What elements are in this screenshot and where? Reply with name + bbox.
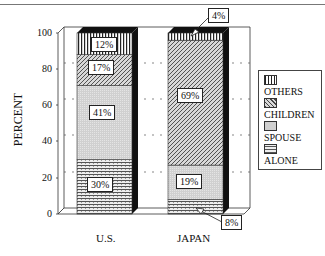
legend-label-alone: ALONE <box>264 155 298 166</box>
y-tick-100: 100 <box>30 27 52 38</box>
x-category-japan: JAPAN <box>177 232 210 244</box>
value-label-japan-children: 69% <box>177 88 203 103</box>
legend-swatch-children <box>264 98 277 108</box>
legend-item-spouse: SPOUSE <box>264 121 301 143</box>
legend: OTHERS CHILDREN SPOUSE ALONE <box>258 70 322 170</box>
value-label-japan-others: 4% <box>208 8 229 23</box>
legend-swatch-alone <box>264 144 277 154</box>
legend-item-children: CHILDREN <box>264 98 315 120</box>
y-tick-80: 80 <box>30 63 52 74</box>
value-label-us-alone: 30% <box>87 177 113 192</box>
legend-item-others: OTHERS <box>264 75 303 97</box>
x-category-us: U.S. <box>96 232 116 244</box>
y-axis-label: PERCENT <box>11 90 26 150</box>
value-label-us-spouse: 41% <box>89 105 115 120</box>
legend-label-spouse: SPOUSE <box>264 132 301 143</box>
legend-swatch-spouse <box>264 121 277 131</box>
y-tick-60: 60 <box>30 99 52 110</box>
y-tick-40: 40 <box>30 135 52 146</box>
y-tick-0: 0 <box>30 208 52 219</box>
value-label-us-children: 17% <box>88 60 114 75</box>
legend-label-children: CHILDREN <box>264 109 315 120</box>
legend-swatch-others <box>264 75 277 85</box>
y-tick-20: 20 <box>30 172 52 183</box>
value-label-us-others: 12% <box>91 37 117 52</box>
value-label-japan-alone: 8% <box>221 215 242 230</box>
legend-label-others: OTHERS <box>264 86 303 97</box>
legend-item-alone: ALONE <box>264 144 298 166</box>
value-label-japan-spouse: 19% <box>176 174 202 189</box>
